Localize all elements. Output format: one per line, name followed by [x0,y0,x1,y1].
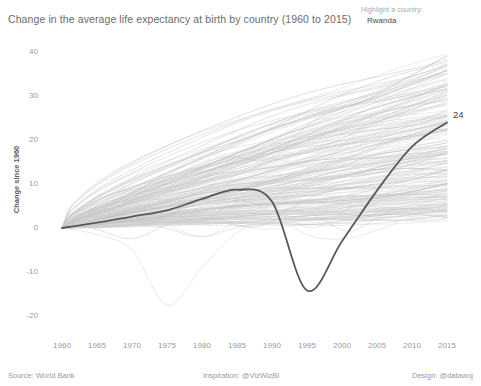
highlight-endpoint-value: 24 [453,109,464,120]
footer-inspiration: Inspiration: @VizWizBI [203,371,279,380]
plot-area [0,0,481,386]
x-tick-label: 2000 [325,341,359,350]
y-tick-label: 40 [12,47,38,56]
y-tick-label: 30 [12,91,38,100]
x-tick-label: 2010 [395,341,429,350]
x-tick-label: 1985 [220,341,254,350]
y-tick-label: 10 [12,179,38,188]
x-tick-label: 1975 [150,341,184,350]
footer-source: Source: World Bank [8,371,75,380]
y-tick-label: 20 [12,135,38,144]
x-tick-label: 1970 [115,341,149,350]
x-tick-label: 1980 [185,341,219,350]
y-tick-label: -20 [12,311,38,320]
x-tick-label: 1965 [80,341,114,350]
y-tick-label: -10 [12,267,38,276]
x-tick-label: 2015 [430,341,464,350]
life-expectancy-chart: Change in the average life expectancy at… [0,0,481,386]
y-tick-label: 0 [12,223,38,232]
x-tick-label: 1990 [255,341,289,350]
x-tick-label: 1960 [45,341,79,350]
x-tick-label: 1995 [290,341,324,350]
footer-design: Design: @datawoj [412,371,473,380]
x-tick-label: 2005 [360,341,394,350]
